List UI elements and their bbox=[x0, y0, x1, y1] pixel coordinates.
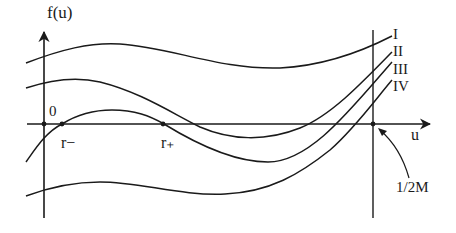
curve-IV bbox=[26, 80, 392, 196]
curve-IV-label: IV bbox=[393, 79, 409, 94]
curve-I bbox=[26, 36, 392, 68]
r-minus-point bbox=[60, 122, 65, 127]
r-minus-label: r− bbox=[61, 135, 75, 151]
vertical-marker-label: 1/2M bbox=[396, 180, 429, 195]
origin-point bbox=[42, 122, 47, 127]
curve-III bbox=[26, 62, 392, 162]
curve-III-label: III bbox=[393, 62, 408, 77]
curve-II-label: II bbox=[393, 44, 403, 59]
vertical-marker-point bbox=[371, 122, 376, 127]
r-plus-point bbox=[161, 122, 166, 127]
y-axis-label: f(u) bbox=[47, 4, 72, 21]
callout-arrow bbox=[380, 130, 409, 178]
origin-label: 0 bbox=[49, 104, 57, 119]
diagram-canvas bbox=[0, 0, 456, 233]
curve-II bbox=[26, 52, 392, 138]
x-axis-label: u bbox=[411, 127, 419, 143]
curve-I-label: I bbox=[393, 27, 398, 42]
r-plus-label: r₊ bbox=[161, 135, 174, 151]
